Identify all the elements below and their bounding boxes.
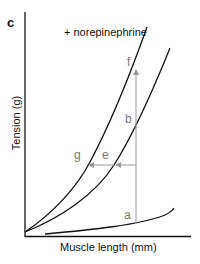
- point-label-g: g: [74, 148, 81, 162]
- x-axis-label: Muscle length (mm): [60, 241, 157, 253]
- control-curve: [25, 48, 170, 232]
- length-tension-chart: [0, 0, 200, 264]
- point-label-b: b: [125, 112, 132, 126]
- y-axis-label: Tension (g): [10, 93, 22, 153]
- point-label-f: f: [127, 55, 130, 69]
- point-label-a: a: [124, 208, 131, 222]
- norepinephrine-label: + norepinephrine: [64, 26, 147, 38]
- point-label-e: e: [102, 148, 109, 162]
